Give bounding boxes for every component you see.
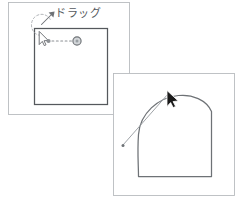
drag-annotation-label: ドラッグ: [55, 8, 101, 19]
anchor-point: [46, 39, 50, 43]
drag-origin-dot: [122, 144, 125, 147]
figure-canvas: ドラッグ: [0, 0, 238, 198]
control-handle-center-icon: [76, 40, 79, 43]
illustration-svg: [0, 0, 238, 198]
